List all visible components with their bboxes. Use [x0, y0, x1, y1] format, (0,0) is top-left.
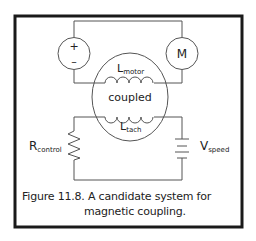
voltage-source-icon: + – — [58, 38, 90, 70]
bottom-wire — [74, 158, 182, 180]
minus-sign: – — [71, 55, 77, 68]
motor-label: M — [177, 47, 187, 61]
right-upper-wire — [154, 70, 182, 83]
battery-icon — [175, 139, 189, 158]
r-control-label: Rcontrol — [29, 139, 62, 154]
coupled-label: coupled — [108, 91, 152, 104]
left-upper-wire — [74, 70, 105, 83]
inductor-tach-icon — [105, 117, 153, 123]
resistor-icon — [68, 131, 80, 160]
caption-line-1: Figure 11.8. A candidate system for — [22, 190, 211, 203]
l-motor-label: Lmotor — [117, 62, 144, 76]
caption-line-2: magnetic coupling. — [84, 205, 186, 218]
inductor-motor-icon — [105, 77, 153, 83]
plus-sign: + — [69, 40, 78, 53]
right-lower-wire — [154, 117, 182, 139]
top-wire — [74, 21, 182, 37]
v-speed-label: Vspeed — [200, 139, 229, 154]
motor-icon: M — [166, 38, 198, 70]
